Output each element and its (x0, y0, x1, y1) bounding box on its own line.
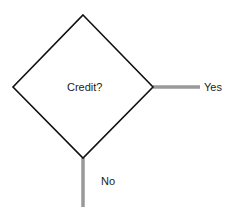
decision-label: Credit? (67, 82, 102, 93)
no-branch-label: No (101, 176, 115, 187)
yes-branch-label: Yes (204, 82, 222, 93)
diagram-svg (0, 0, 234, 219)
